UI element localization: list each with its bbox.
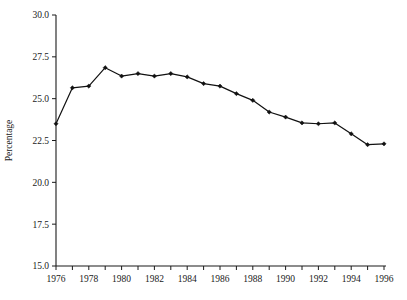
x-axis-tick-label: 1996 [375,274,394,284]
x-axis-tick-label: 1992 [309,274,328,284]
data-point-marker [70,86,74,90]
data-point-marker [152,74,156,78]
data-point-marker [54,122,58,126]
y-axis-tick-label: 25.0 [32,94,49,104]
plot-area: 15.017.520.022.525.027.530.0197619781980… [0,0,407,300]
x-axis-tick-label: 1980 [112,274,131,284]
x-axis-tick-label: 1986 [211,274,230,284]
x-axis-tick-label: 1988 [243,274,262,284]
data-point-marker [120,74,124,78]
x-axis-tick-label: 1982 [145,274,164,284]
data-point-marker [169,71,173,75]
x-axis-tick-label: 1984 [178,274,197,284]
data-point-marker [300,121,304,125]
x-axis-tick-label: 1994 [342,274,361,284]
series-line-percentage [56,68,384,145]
data-point-marker [136,71,140,75]
y-axis-title: Percentage [4,120,14,162]
y-axis-tick-label: 27.5 [32,52,49,62]
data-point-marker [382,142,386,146]
y-axis-tick-label: 20.0 [32,178,49,188]
y-axis-tick-label: 15.0 [32,261,49,271]
x-axis-tick-label: 1976 [47,274,66,284]
y-axis-tick-label: 22.5 [32,136,49,146]
y-axis-tick-label: 17.5 [32,220,49,230]
x-axis-tick-label: 1990 [276,274,295,284]
data-point-marker [202,82,206,86]
data-point-marker [218,84,222,88]
data-point-marker [316,122,320,126]
data-point-marker [234,92,238,96]
line-chart: 15.017.520.022.525.027.530.0197619781980… [0,0,407,300]
x-axis-tick-label: 1978 [79,274,98,284]
data-point-marker [185,75,189,79]
data-point-marker [284,115,288,119]
y-axis-tick-label: 30.0 [32,10,49,20]
